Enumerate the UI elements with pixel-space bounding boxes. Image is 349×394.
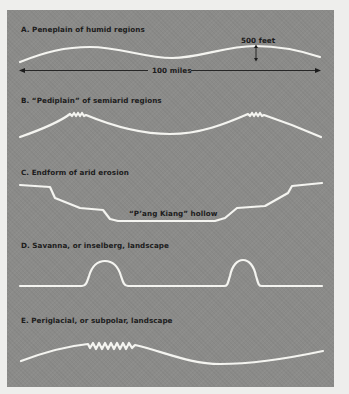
panel-a-title: A. Peneplain of humid regions [21,26,145,33]
profile-a-peneplain [20,46,320,62]
panel-d-title: D. Savanna, or inselberg, landscape [21,242,169,249]
profile-e-periglacial [21,343,323,364]
landform-profiles-diagram [0,0,349,394]
hollow-label: “P’ang Kiang” hollow [129,210,217,217]
horizontal-scale-label: 100 miles [152,67,192,74]
vertical-scale-label: 500 feet [241,37,275,44]
vertical-scale-arrow [254,45,258,62]
profile-b-pediplain [20,113,321,137]
profile-d-inselberg [20,260,322,286]
panel-b-title: B. “Pediplain” of semiarid regions [21,97,162,104]
panel-e-title: E. Periglacial, or subpolar, landscape [21,317,173,324]
panel-c-title: C. Endform of arid erosion [21,169,129,176]
